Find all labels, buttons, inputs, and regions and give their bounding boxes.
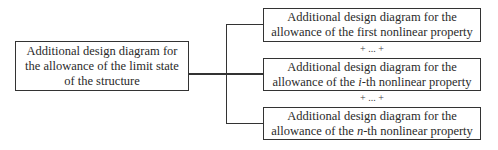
connector-to-target-3 [226,123,264,125]
target-3-line-2: allowance of the n-th nonlinear property [271,124,473,139]
separator-1: + ... + [342,43,402,54]
connector-to-target-1 [226,24,264,26]
connector-source-to-trunk [188,73,227,75]
target-1-line-1: Additional design diagram for the [287,10,456,25]
target-1-suffix: nonlinear property [377,25,473,39]
separator-2: + ... + [342,92,402,103]
source-line-1: Additional design diagram for [26,44,177,59]
target-box-ith-nonlinear: Additional design diagram for the allowa… [263,58,481,91]
target-1-line-2: allowance of the first nonlinear propert… [271,25,473,40]
target-box-first-nonlinear: Additional design diagram for the allowa… [263,8,481,42]
connector-to-target-2 [226,73,264,75]
target-2-suffix: -th nonlinear property [362,75,472,89]
source-line-3: of the structure [64,74,140,89]
source-box-limit-state: Additional design diagram for the allowa… [15,41,189,91]
target-2-line-1: Additional design diagram for the [287,60,456,75]
target-3-suffix: -th nonlinear property [363,124,473,138]
target-2-prefix: allowance of the [273,75,359,89]
target-3-prefix: allowance of the [271,124,357,138]
target-2-line-2: allowance of the i-th nonlinear property [273,75,472,90]
target-1-prefix: allowance of the [271,25,357,39]
target-1-ordinal: first [357,25,377,39]
target-3-line-1: Additional design diagram for the [287,109,456,124]
target-box-nth-nonlinear: Additional design diagram for the allowa… [263,107,481,140]
source-line-2: the allowance of the limit state [25,59,179,74]
